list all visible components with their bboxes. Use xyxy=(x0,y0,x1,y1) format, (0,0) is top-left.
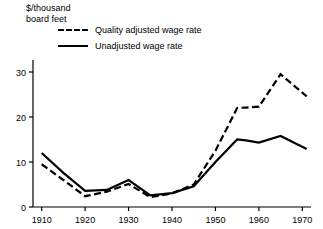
y-axis-tick-label: 0 xyxy=(21,203,26,213)
series-line-dashed xyxy=(42,74,307,197)
x-axis-tick-label: 1940 xyxy=(162,215,182,225)
x-axis-tick-label: 1920 xyxy=(75,215,95,225)
x-axis-tick-label: 1930 xyxy=(119,215,139,225)
x-axis-tick-label: 1960 xyxy=(249,215,269,225)
x-axis-tick-label: 1950 xyxy=(205,215,225,225)
y-axis-tick-label: 30 xyxy=(16,68,26,78)
y-axis-tick-label: 10 xyxy=(16,158,26,168)
y-axis-tick-label: 20 xyxy=(16,113,26,123)
chart-container: $/thousandboard feet Quality adjusted wa… xyxy=(0,0,323,229)
x-axis-tick-label: 1970 xyxy=(292,215,312,225)
chart-plot: 01020301910192019301940195019601970 xyxy=(0,0,323,229)
x-axis-tick-label: 1910 xyxy=(32,215,52,225)
series-line-solid xyxy=(42,136,307,195)
